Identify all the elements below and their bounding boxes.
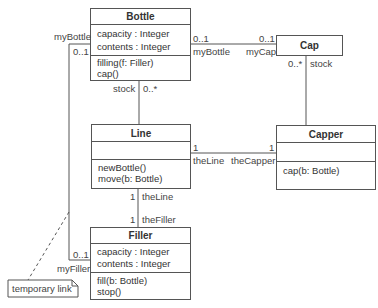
multiplicity-label: 0..1 bbox=[193, 33, 209, 44]
multiplicity-label: 1 bbox=[130, 214, 135, 225]
class-filler[interactable]: Filler capacity : Integer contents : Int… bbox=[90, 227, 191, 300]
attribute: contents : Integer bbox=[97, 40, 184, 53]
attribute: contents : Integer bbox=[97, 258, 184, 270]
class-bottle[interactable]: Bottle capacity : Integer contents : Int… bbox=[90, 8, 191, 81]
multiplicity-label: 0..1 bbox=[73, 249, 89, 260]
role-label: theCapper bbox=[231, 155, 275, 166]
operations-section: newBottle() move(b: Bottle) bbox=[92, 160, 190, 188]
operation: stop() bbox=[97, 286, 184, 297]
class-capper[interactable]: Capper cap(b: Bottle) bbox=[276, 125, 376, 190]
attribute: capacity : Integer bbox=[97, 246, 184, 258]
role-label: myCap bbox=[246, 46, 276, 57]
assoc-bottle-filler bbox=[69, 44, 90, 260]
operation: fill(b: Bottle) bbox=[97, 275, 184, 286]
operation: filling(f: Filler) bbox=[97, 57, 184, 68]
multiplicity-label: 1 bbox=[130, 191, 135, 202]
role-label: stock bbox=[310, 58, 332, 69]
multiplicity-label: 1 bbox=[193, 142, 198, 153]
attribute: capacity : Integer bbox=[97, 27, 184, 40]
attributes-section: capacity : Integer contents : Integer bbox=[91, 25, 190, 56]
class-name: Bottle bbox=[91, 9, 190, 25]
class-cap[interactable]: Cap bbox=[276, 35, 343, 56]
operations-section: fill(b: Bottle) stop() bbox=[91, 273, 190, 299]
role-label: myBottle bbox=[54, 31, 91, 42]
attributes-section: capacity : Integer contents : Integer bbox=[91, 244, 190, 273]
multiplicity-label: 0..1 bbox=[259, 33, 275, 44]
operation: newBottle() bbox=[98, 162, 184, 173]
operation: cap(b: Bottle) bbox=[283, 165, 369, 176]
attributes-section bbox=[277, 143, 375, 162]
role-label: theLine bbox=[142, 191, 173, 202]
role-label: myFiller bbox=[57, 263, 90, 274]
multiplicity-label: 0..* bbox=[288, 58, 302, 69]
operation: cap() bbox=[97, 68, 184, 79]
operation: move(b: Bottle) bbox=[98, 173, 184, 184]
class-name: Filler bbox=[91, 228, 190, 244]
class-name: Cap bbox=[277, 36, 342, 55]
role-label: theLine bbox=[193, 155, 224, 166]
operations-section: cap(b: Bottle) bbox=[277, 162, 375, 189]
role-label: theFiller bbox=[142, 214, 176, 225]
class-name: Line bbox=[92, 125, 190, 142]
operations-section: filling(f: Filler) cap() bbox=[91, 56, 190, 80]
multiplicity-label: 1 bbox=[269, 142, 274, 153]
class-line[interactable]: Line newBottle() move(b: Bottle) bbox=[91, 124, 191, 189]
attributes-section bbox=[92, 142, 190, 160]
multiplicity-label: 0..1 bbox=[73, 46, 89, 57]
note-text: temporary link bbox=[12, 283, 72, 294]
class-name: Capper bbox=[277, 126, 375, 143]
role-label: stock bbox=[113, 83, 135, 94]
multiplicity-label: 0..* bbox=[143, 83, 157, 94]
role-label: myBottle bbox=[193, 46, 230, 57]
